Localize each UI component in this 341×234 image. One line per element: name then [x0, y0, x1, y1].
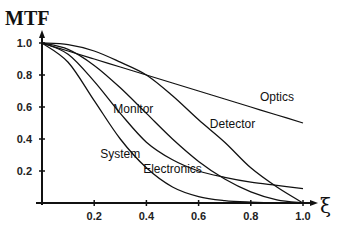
curve-optics: [42, 43, 303, 123]
curves: [42, 43, 303, 203]
y-tick-label: 0.6: [17, 101, 32, 113]
y-axis-title: MTF: [5, 7, 49, 29]
ticks: 0.20.40.60.81.00.20.40.60.81.0: [17, 37, 311, 222]
x-tick-label: 0.4: [139, 210, 155, 222]
label-system: System: [100, 147, 140, 161]
label-detector: Detector: [210, 117, 255, 131]
mtf-chart: 0.20.40.60.81.00.20.40.60.81.0 MTF ξ Opt…: [0, 0, 341, 234]
axes: [36, 36, 312, 205]
series-labels: OpticsDetectorMonitorElectronicsSystem: [100, 90, 294, 176]
x-axis-title: ξ: [320, 194, 331, 218]
y-tick-label: 0.2: [17, 165, 32, 177]
x-tick-label: 0.6: [191, 210, 206, 222]
x-tick-label: 0.2: [87, 210, 102, 222]
x-axis-arrow-icon: [310, 200, 318, 206]
label-electronics: Electronics: [143, 162, 202, 176]
label-monitor: Monitor: [113, 102, 153, 116]
y-axis-arrow-icon: [39, 30, 45, 38]
y-tick-label: 0.8: [17, 69, 32, 81]
y-tick-label: 1.0: [17, 37, 32, 49]
x-tick-label: 0.8: [243, 210, 258, 222]
y-tick-label: 0.4: [17, 133, 33, 145]
label-optics: Optics: [260, 90, 294, 104]
x-tick-label: 1.0: [295, 210, 310, 222]
